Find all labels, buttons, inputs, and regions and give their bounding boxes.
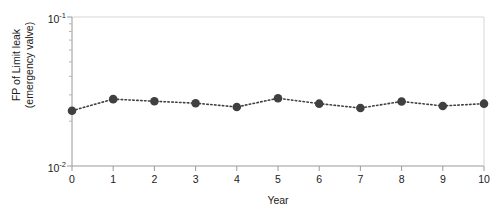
y-tick-label-lower: 10-2: [32, 160, 66, 174]
data-point-marker: [439, 102, 448, 111]
series-markers: [68, 94, 489, 115]
x-tick-label: 6: [309, 173, 329, 185]
y-axis-title-text: FP of Limit leak (emergency valve): [10, 22, 35, 108]
x-tick-label: 9: [433, 173, 453, 185]
data-point-marker: [233, 103, 242, 112]
chart-container: FP of Limit leak (emergency valve) 10-1 …: [0, 0, 502, 215]
data-point-marker: [356, 104, 365, 113]
x-tick-label: 10: [474, 173, 494, 185]
y-axis-major-ticks: [67, 17, 72, 166]
x-tick-label: 5: [268, 173, 288, 185]
x-axis-title: Year: [248, 194, 308, 206]
data-point-marker: [315, 99, 324, 108]
data-point-marker: [150, 97, 159, 106]
y-tick-label-upper: 10-1: [32, 11, 66, 25]
x-tick-label: 4: [227, 173, 247, 185]
x-tick-label: 8: [392, 173, 412, 185]
x-tick-label: 0: [62, 173, 82, 185]
x-tick-label: 2: [144, 173, 164, 185]
data-point-marker: [274, 94, 283, 103]
x-axis-ticks: [72, 166, 484, 171]
data-point-marker: [68, 106, 77, 115]
data-point-marker: [480, 99, 489, 108]
x-tick-label: 7: [350, 173, 370, 185]
data-point-marker: [109, 95, 118, 104]
x-tick-label: 3: [186, 173, 206, 185]
data-point-marker: [191, 99, 200, 108]
data-point-marker: [397, 97, 406, 106]
x-tick-label: 1: [103, 173, 123, 185]
